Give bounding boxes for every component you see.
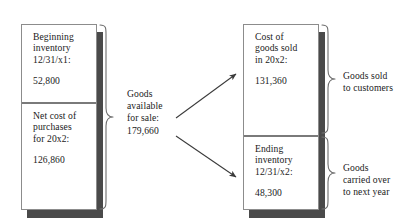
cogs-amount: 131,360 — [255, 75, 318, 86]
ending-inventory-amount: 48,300 — [255, 187, 318, 198]
goods-sold-line-1: Goods sold — [343, 70, 413, 82]
goods-carried-over-label: Goods carried over to next year — [343, 162, 413, 199]
goods-carried-line-1: Goods — [343, 162, 413, 174]
cogs-line-2: goods sold — [255, 42, 318, 53]
right-stack-body: Cost of goods sold in 20x2: 131,360 Endi… — [243, 24, 319, 210]
arrow-to-ending-inventory — [176, 136, 236, 177]
goods-sold-line-2: to customers — [343, 82, 413, 94]
goods-carried-line-2: carried over — [343, 174, 413, 186]
arrow-to-cost-of-goods-sold — [176, 74, 236, 118]
goods-carried-line-3: to next year — [343, 186, 413, 198]
cogs-line-3: in 20x2: — [255, 54, 318, 65]
ending-inventory-box: Ending inventory 12/31/x2: 48,300 — [244, 137, 318, 211]
goods-sold-to-customers-label: Goods sold to customers — [343, 70, 413, 94]
inventory-flow-diagram: Beginning inventory 12/31/x1: 52,800 Net… — [0, 0, 413, 223]
ending-inventory-line-3: 12/31/x2: — [255, 166, 318, 177]
ending-inventory-line-2: inventory — [255, 154, 318, 165]
right-box-stack: Cost of goods sold in 20x2: 131,360 Endi… — [243, 24, 319, 210]
cost-of-goods-sold-box: Cost of goods sold in 20x2: 131,360 — [244, 25, 318, 135]
cogs-line-1: Cost of — [255, 31, 318, 42]
ending-inventory-line-1: Ending — [255, 143, 318, 154]
